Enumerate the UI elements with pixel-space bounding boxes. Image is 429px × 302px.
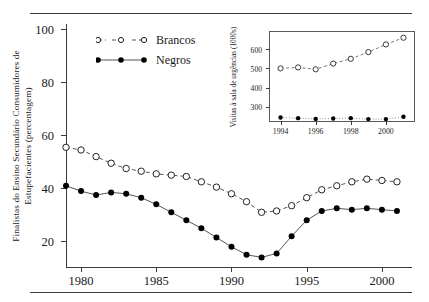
data-point-negros [78, 188, 84, 194]
data-point-negros [296, 116, 300, 120]
data-point-negros [319, 208, 325, 214]
data-point-brancos [319, 187, 325, 193]
data-point-negros [93, 192, 99, 198]
x-tick-label: 1998 [343, 127, 359, 136]
data-point-brancos [198, 179, 204, 185]
data-point-brancos [258, 209, 264, 215]
data-point-negros [198, 225, 204, 231]
inset-plot-area: 300400500600 1994199619982000 [269, 31, 415, 122]
x-tick-label: 2000 [378, 127, 394, 136]
data-point-negros [259, 254, 265, 260]
y-tick-label: 100 [35, 22, 54, 37]
inset-y-axis-label-container: Visitas à sala de urgências (1000s) [225, 29, 241, 125]
x-tick [316, 121, 317, 125]
bottom-horizontal-rule [30, 292, 412, 293]
data-point-brancos [213, 184, 219, 190]
data-point-negros [331, 116, 335, 120]
data-point-brancos [334, 183, 340, 189]
data-point-negros [349, 207, 355, 213]
data-point-negros [63, 183, 69, 189]
inset-y-axis-label: Visitas à sala de urgências (1000s) [229, 12, 238, 142]
data-point-brancos [348, 56, 353, 61]
data-point-negros [364, 205, 370, 211]
data-point-brancos [138, 168, 144, 174]
y-tick-label: 600 [251, 45, 262, 54]
data-point-brancos [296, 65, 301, 70]
data-point-brancos [394, 179, 400, 185]
data-point-negros [153, 201, 159, 207]
data-point-brancos [273, 208, 279, 214]
data-point-brancos [108, 160, 114, 166]
data-point-negros [366, 117, 370, 121]
y-axis-label-container: Finalistas do Ensino Secundário Consumid… [0, 18, 44, 274]
data-point-negros [334, 205, 340, 211]
data-point-negros [349, 116, 353, 120]
legend-marker-negros [96, 53, 148, 67]
data-point-negros [278, 115, 282, 119]
x-tick-label: 1994 [273, 127, 289, 136]
y-tick-label: 80 [42, 75, 55, 90]
y-axis-label-line2: Estupefacientes (percentagem) [22, 21, 34, 271]
legend-marker-brancos [96, 33, 148, 47]
data-point-brancos [93, 153, 99, 159]
y-axis-label-line1: Finalistas do Ensino Secundário Consumid… [10, 21, 22, 271]
data-point-brancos [63, 144, 69, 150]
data-point-negros [108, 189, 114, 195]
y-tick-label: 20 [42, 234, 55, 249]
x-tick [351, 121, 352, 125]
data-point-brancos [168, 172, 174, 178]
x-tick-label: 2000 [369, 274, 394, 289]
y-tick-label: 500 [251, 64, 262, 73]
data-point-brancos [278, 66, 283, 71]
data-point-negros [213, 235, 219, 241]
inset-chart: Visitas à sala de urgências (1000s) 3004… [225, 29, 421, 141]
y-tick-label: 40 [42, 181, 55, 196]
data-point-negros [313, 117, 317, 121]
data-point-brancos [349, 179, 355, 185]
data-point-brancos [313, 67, 318, 72]
x-tick-label: 1985 [144, 274, 169, 289]
y-tick-label: 400 [251, 84, 262, 93]
x-tick-label: 1995 [294, 274, 319, 289]
legend: Brancos Negros [96, 30, 195, 70]
legend-label-brancos: Brancos [156, 33, 195, 48]
data-point-brancos [364, 176, 370, 182]
data-point-negros [289, 233, 295, 239]
data-point-negros [123, 191, 129, 197]
data-point-brancos [379, 177, 385, 183]
x-tick [281, 121, 282, 125]
data-point-negros [138, 195, 144, 201]
data-point-brancos [383, 42, 388, 47]
data-point-negros [401, 115, 405, 119]
data-point-brancos [228, 191, 234, 197]
x-tick-label: 1980 [69, 274, 94, 289]
data-point-negros [244, 252, 250, 258]
data-point-brancos [153, 171, 159, 177]
legend-label-negros: Negros [156, 53, 191, 68]
data-point-negros [183, 217, 189, 223]
data-point-brancos [288, 202, 294, 208]
data-point-brancos [304, 195, 310, 201]
top-horizontal-rule [30, 13, 412, 14]
data-point-negros [394, 208, 400, 214]
y-tick-label: 60 [42, 128, 55, 143]
data-point-brancos [401, 35, 406, 40]
data-point-negros [379, 207, 385, 213]
legend-item-brancos: Brancos [96, 30, 195, 50]
data-point-negros [228, 244, 234, 250]
data-point-brancos [123, 165, 129, 171]
series-line-brancos [66, 147, 397, 212]
data-point-brancos [243, 199, 249, 205]
y-tick-label: 300 [251, 103, 262, 112]
y-axis-label: Finalistas do Ensino Secundário Consumid… [10, 21, 34, 271]
data-point-negros [168, 209, 174, 215]
data-point-brancos [183, 173, 189, 179]
data-point-brancos [366, 50, 371, 55]
data-point-negros [274, 250, 280, 256]
figure-container: Finalistas do Ensino Secundário Consumid… [0, 0, 429, 302]
x-tick [386, 121, 387, 125]
data-point-brancos [331, 61, 336, 66]
data-point-negros [304, 217, 310, 223]
data-point-brancos [78, 147, 84, 153]
data-point-negros [384, 117, 388, 121]
